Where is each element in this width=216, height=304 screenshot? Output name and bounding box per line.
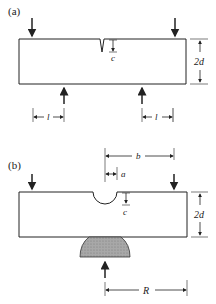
beam-a <box>19 39 186 84</box>
radius-a-label: a <box>121 169 126 179</box>
curved-support <box>80 237 130 257</box>
panel-b-label: (b) <box>8 159 21 172</box>
beam-b <box>19 192 187 237</box>
beam-diagrams: (a) c 2d l l (b) <box>0 0 216 304</box>
height-b-label: 2d <box>194 209 205 220</box>
panel-a-label: (a) <box>8 5 21 18</box>
panel-a: (a) c 2d l l <box>8 5 208 122</box>
support-radius-label: R <box>142 285 149 296</box>
span-left-label: l <box>47 112 50 122</box>
crack-depth-label: c <box>111 53 115 63</box>
height-label: 2d <box>194 56 205 67</box>
span-right-label: l <box>155 112 158 122</box>
offset-b-label: b <box>136 151 141 161</box>
depth-c-label: c <box>123 207 127 217</box>
panel-b: (b) b a c 2d <box>8 148 208 296</box>
